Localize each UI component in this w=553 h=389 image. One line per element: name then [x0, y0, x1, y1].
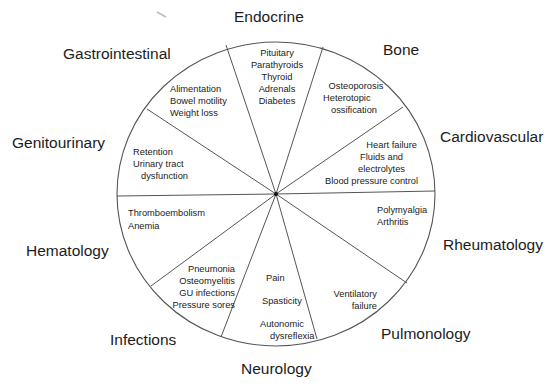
segment-item: Ventilatory: [325, 288, 377, 300]
segment-item: Osteoporosis: [320, 80, 392, 92]
segment-item: Arthritis: [377, 216, 427, 228]
segment-item: Anemia: [128, 220, 205, 232]
segment-item: Blood pressure control: [325, 175, 417, 187]
segment-item: Adrenals: [242, 83, 312, 95]
segment-infections-items: Pneumonia Osteomyelitis GU infections Pr…: [165, 263, 235, 311]
segment-genitourinary-items: Retention Urinary tract dysfunction: [133, 146, 188, 182]
segment-endocrine-items: Pituitary Parathyroids Thyroid Adrenals …: [242, 47, 312, 107]
segment-item: Urinary tract: [133, 158, 188, 170]
segment-item: Spasticity: [256, 295, 314, 307]
segment-item: Pituitary: [242, 47, 312, 59]
segment-neurology-items: Pain Spasticity Autonomic dysreflexia: [256, 272, 314, 342]
segment-item: Osteomyelitis: [165, 275, 235, 287]
category-label-infections: Infections: [110, 331, 176, 349]
segment-item: Heterotopic: [320, 92, 392, 104]
segment-item: Diabetes: [242, 95, 312, 107]
segment-item: Fluids and: [325, 151, 417, 163]
segment-item: Autonomic: [256, 318, 314, 330]
segment-item: Parathyroids: [242, 59, 312, 71]
segment-item: Alimentation: [170, 83, 227, 95]
segment-item: dysreflexia: [256, 330, 314, 342]
category-label-genitourinary: Genitourinary: [12, 134, 105, 152]
segment-item: Pressure sores: [165, 299, 235, 311]
segment-item: Bowel motility: [170, 95, 227, 107]
segment-item: Pneumonia: [165, 263, 235, 275]
segment-item: Retention: [133, 146, 188, 158]
segment-bone-items: Osteoporosis Heterotopic ossification: [320, 80, 392, 116]
segment-item: ossification: [320, 104, 392, 116]
segment-item: electrolytes: [325, 163, 417, 175]
category-label-rheumatology: Rheumatology: [443, 236, 543, 254]
segment-item: Pain: [256, 272, 314, 284]
segment-gastrointestinal-items: Alimentation Bowel motility Weight loss: [170, 83, 227, 119]
scan-artifact: [157, 12, 166, 17]
category-label-hematology: Hematology: [26, 242, 109, 260]
segment-item: Heart failure: [325, 139, 417, 151]
segment-pulmonology-items: Ventilatory failure: [325, 288, 377, 312]
center-dot: [274, 192, 278, 196]
segment-item: Polymyalgia: [377, 204, 427, 216]
segment-rheumatology-items: Polymyalgia Arthritis: [377, 204, 427, 228]
segment-hematology-items: Thromboembolism Anemia: [128, 207, 205, 232]
segment-item: Weight loss: [170, 107, 227, 119]
category-label-endocrine: Endocrine: [234, 8, 304, 26]
category-label-pulmonology: Pulmonology: [381, 325, 471, 343]
segment-item: Thromboembolism: [128, 207, 205, 219]
category-label-cardiovascular: Cardiovascular: [440, 128, 543, 146]
segment-item: GU infections: [165, 287, 235, 299]
category-label-gastrointestinal: Gastrointestinal: [63, 45, 171, 63]
category-label-bone: Bone: [383, 41, 419, 59]
segment-item: dysfunction: [133, 170, 188, 182]
segment-cardiovascular-items: Heart failure Fluids and electrolytes Bl…: [325, 139, 417, 187]
category-label-neurology: Neurology: [241, 360, 312, 378]
segment-item: failure: [325, 300, 377, 312]
segment-item: Thyroid: [242, 71, 312, 83]
